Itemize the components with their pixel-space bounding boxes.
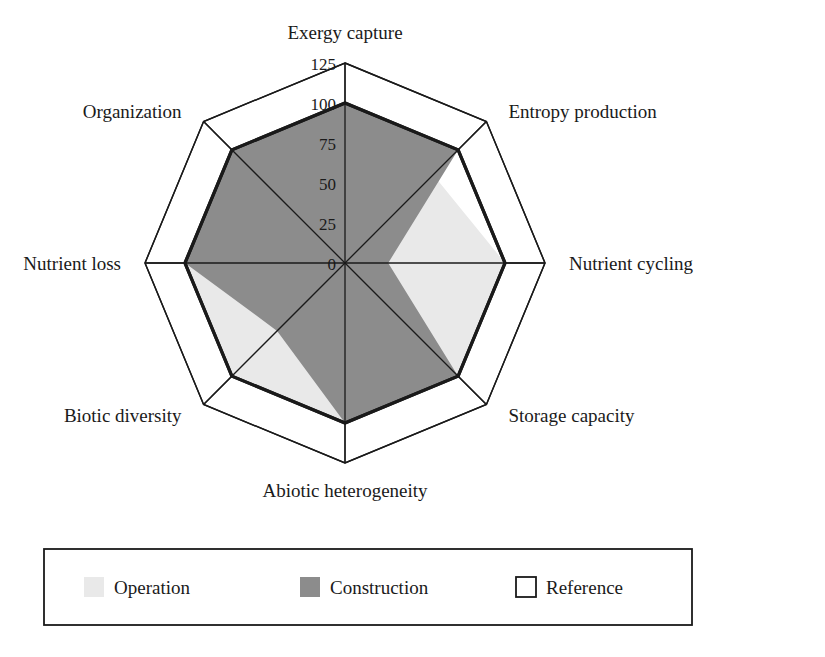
tick-label-125: 125 xyxy=(311,55,337,74)
axis-label-exergy-capture: Exergy capture xyxy=(287,22,402,43)
tick-label-75: 75 xyxy=(319,135,336,154)
tick-label-50: 50 xyxy=(319,175,336,194)
legend-label-construction: Construction xyxy=(330,577,429,598)
tick-label-0: 0 xyxy=(328,255,337,274)
radar-chart-svg: 0255075100125 Exergy captureEntropy prod… xyxy=(0,0,825,657)
axis-label-nutrient-cycling: Nutrient cycling xyxy=(569,253,693,274)
legend-swatch-operation xyxy=(84,577,104,597)
series-polygons xyxy=(145,63,545,463)
axis-label-nutrient-loss: Nutrient loss xyxy=(23,253,121,274)
legend-label-reference: Reference xyxy=(546,577,623,598)
tick-label-25: 25 xyxy=(319,215,336,234)
legend-label-operation: Operation xyxy=(114,577,190,598)
axis-label-organization: Organization xyxy=(83,101,182,122)
axis-label-abiotic-heterogeneity: Abiotic heterogeneity xyxy=(262,480,428,501)
tick-label-100: 100 xyxy=(311,95,337,114)
legend-swatch-reference xyxy=(516,577,536,597)
chart-legend: OperationConstructionReference xyxy=(44,549,692,625)
axis-label-entropy-production: Entropy production xyxy=(508,101,657,122)
axis-label-biotic-diversity: Biotic diversity xyxy=(64,405,182,426)
axis-label-storage-capacity: Storage capacity xyxy=(508,405,635,426)
radar-chart-figure: 0255075100125 Exergy captureEntropy prod… xyxy=(0,0,825,657)
legend-swatch-construction xyxy=(300,577,320,597)
